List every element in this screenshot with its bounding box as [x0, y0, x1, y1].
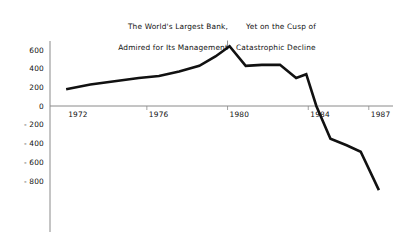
y-tick-labels: 6004002000- 200- 400- 600- 800	[24, 46, 44, 186]
x-tick-label: 1976	[149, 110, 169, 119]
x-tick-label: 1987	[371, 110, 391, 119]
y-tick-label: - 800	[24, 177, 44, 186]
chart-plot: 6004002000- 200- 400- 600- 800 197219761…	[0, 0, 417, 240]
y-tick-label: 0	[39, 102, 44, 111]
data-series-line	[66, 46, 379, 190]
y-tick-label: 200	[29, 83, 44, 92]
y-tick-label: - 400	[24, 139, 44, 148]
x-tick-label: 1972	[68, 110, 88, 119]
y-tick-label: 400	[29, 64, 44, 73]
x-tick-labels: 19721976198019841987	[68, 110, 390, 119]
x-tick-label: 1980	[230, 110, 250, 119]
axes	[50, 41, 393, 232]
x-tick-marks	[147, 106, 369, 110]
y-tick-label: 600	[29, 46, 44, 55]
chart-figure: The World's Largest Bank, Admired for It…	[0, 0, 417, 240]
y-tick-label: - 600	[24, 158, 44, 167]
y-tick-label: - 200	[24, 120, 44, 129]
